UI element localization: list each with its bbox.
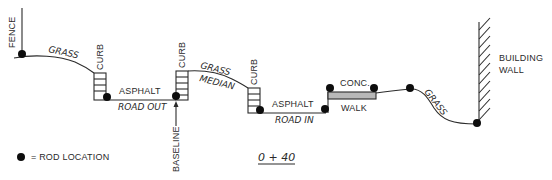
asphalt-in-label: ASPHALT [272, 99, 314, 109]
concrete-walk [328, 92, 376, 99]
rod-icon [326, 84, 334, 92]
curb-3-label: CURB [249, 59, 259, 85]
rod-icon [473, 119, 481, 127]
grass-left-surface [14, 56, 94, 73]
rod-icon [172, 92, 180, 100]
curb-1-label: CURB [95, 44, 105, 70]
rod-icon [103, 93, 111, 101]
road-out-label: ROAD OUT [118, 102, 168, 112]
road-in-label: ROAD IN [275, 115, 314, 125]
rod-icon [370, 84, 378, 92]
grass-right-label: GRASS [422, 87, 449, 117]
baseline-arrowhead-icon [174, 101, 179, 107]
legend-label: = ROD LOCATION [31, 152, 109, 162]
asphalt-out-label: ASPHALT [119, 86, 161, 96]
grass-left-label: GRASS [48, 44, 80, 60]
building-wall [479, 18, 490, 124]
walk-label: WALK [341, 103, 367, 113]
station-label: 0 + 40 [258, 151, 295, 164]
curb-2-label: CURB [177, 42, 187, 68]
rod-icon [18, 50, 26, 58]
rod-icon [321, 105, 329, 113]
conc-label: CONC. [340, 78, 370, 88]
rod-icon [256, 106, 264, 114]
fence-label: FENCE [7, 16, 17, 48]
building-label-1: BUILDING [499, 53, 543, 63]
legend-rod-icon [17, 153, 25, 161]
legend: = ROD LOCATION [17, 152, 109, 162]
rod-icon [406, 84, 414, 92]
cross-section-diagram: FENCE GRASS CURB ASPHALT ROAD OUT CURB B… [0, 0, 552, 180]
grass-median-label-2: MEDIAN [199, 73, 237, 91]
baseline-label: BASELINE [171, 126, 181, 172]
building-label-2: WALL [499, 65, 524, 75]
